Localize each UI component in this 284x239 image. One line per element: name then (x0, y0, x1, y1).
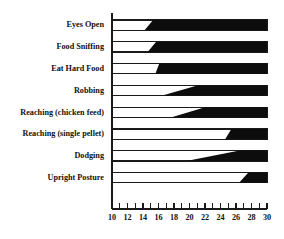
category-label: Reaching (single pellet) (23, 129, 105, 138)
category-labels-group: Eyes OpenFood SniffingEat Hard FoodRobbi… (20, 20, 105, 182)
chart-figure: Eyes OpenFood SniffingEat Hard FoodRobbi… (0, 0, 284, 239)
x-tick-label: 16 (154, 213, 162, 222)
x-tick-label: 14 (139, 213, 147, 222)
x-tick-label: 12 (123, 213, 131, 222)
x-tick-label: 18 (170, 213, 178, 222)
bar-fill (155, 64, 267, 74)
category-label: Eyes Open (66, 20, 104, 29)
x-tick-label: 20 (185, 213, 193, 222)
x-tick-label: 22 (201, 213, 209, 222)
category-label: Upright Posture (48, 173, 105, 182)
category-label: Food Sniffing (56, 42, 104, 51)
x-tick-label: 30 (263, 213, 271, 222)
x-tick-label: 26 (232, 213, 240, 222)
bar-fill (148, 42, 267, 52)
category-label: Reaching (chicken feed) (20, 108, 104, 117)
bar-fill (145, 20, 267, 30)
x-tick-label: 24 (216, 213, 224, 222)
category-label: Robbing (74, 86, 105, 95)
bars-group (112, 20, 267, 183)
bar-fill (225, 129, 267, 139)
x-tick-label: 28 (247, 213, 255, 222)
tick-labels-group: 1012141618202224262830 (108, 213, 271, 222)
horizontal-bar-chart: Eyes OpenFood SniffingEat Hard FoodRobbi… (0, 0, 284, 239)
category-label: Eat Hard Food (51, 64, 104, 73)
category-label: Dodging (74, 151, 104, 160)
x-tick-label: 10 (108, 213, 116, 222)
